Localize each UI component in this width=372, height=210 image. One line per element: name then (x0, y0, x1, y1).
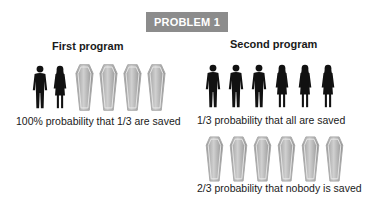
man-icon (227, 62, 245, 111)
coffin-icon (229, 136, 248, 182)
second-program-title: Second program (230, 38, 317, 50)
man-icon (204, 62, 222, 111)
coffin-icon (123, 63, 142, 112)
coffin-icon (301, 136, 320, 182)
woman-icon (296, 62, 314, 111)
coffin-icon (325, 136, 344, 182)
problem-badge: PROBLEM 1 (146, 12, 228, 32)
first-program-icons (31, 63, 166, 112)
second-program-dead-caption: 2/3 probability that nobody is saved (197, 182, 362, 194)
woman-icon (51, 63, 69, 112)
woman-icon (273, 62, 291, 111)
man-icon (31, 63, 49, 112)
first-program-caption: 100% probability that 1/3 are saved (16, 115, 181, 127)
coffin-icon (253, 136, 272, 182)
man-icon (250, 62, 268, 111)
coffin-icon (147, 63, 166, 112)
second-program-saved-icons (204, 62, 337, 111)
coffin-icon (277, 136, 296, 182)
woman-icon (319, 62, 337, 111)
coffin-icon (99, 63, 118, 112)
coffin-icon (75, 63, 94, 112)
second-program-saved-caption: 1/3 probability that all are saved (197, 114, 345, 126)
second-program-dead-icons (205, 136, 344, 182)
first-program-title: First program (52, 40, 124, 52)
coffin-icon (205, 136, 224, 182)
